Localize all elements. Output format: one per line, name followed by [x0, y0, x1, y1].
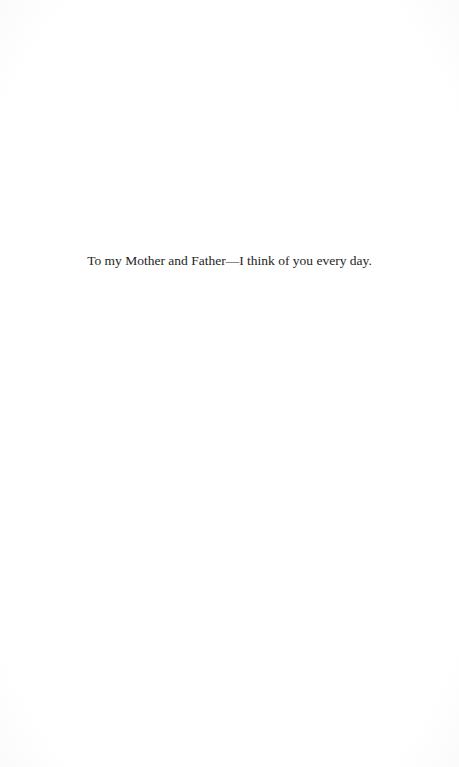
- book-page: To my Mother and Father—I think of you e…: [0, 0, 459, 767]
- dedication-text: To my Mother and Father—I think of you e…: [0, 251, 459, 271]
